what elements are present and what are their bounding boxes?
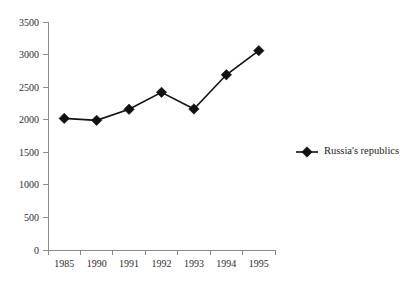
x-axis-ticks: [48, 250, 275, 255]
x-tick-label: 1993: [184, 258, 204, 269]
x-tick-label: 1991: [119, 258, 139, 269]
y-axis-tick-labels: 0500100015002000250030003500: [19, 17, 39, 256]
line-chart: 0500100015002000250030003500 19851990199…: [0, 0, 407, 284]
y-tick-label: 1500: [19, 147, 39, 158]
legend: Russia's republics: [296, 145, 399, 157]
y-tick-label: 3500: [19, 17, 39, 28]
x-tick-label: 1995: [249, 258, 269, 269]
y-tick-label: 2000: [19, 114, 39, 125]
x-tick-label: 1985: [54, 258, 74, 269]
y-axis-ticks: [43, 22, 48, 250]
y-tick-label: 2500: [19, 82, 39, 93]
legend-label: Russia's republics: [324, 145, 399, 156]
y-tick-label: 3000: [19, 49, 39, 60]
y-tick-label: 500: [24, 212, 39, 223]
series-markers: [59, 45, 264, 125]
data-point-marker: [156, 87, 166, 97]
chart-container: 0500100015002000250030003500 19851990199…: [0, 0, 407, 284]
x-tick-label: 1990: [87, 258, 107, 269]
x-tick-label: 1994: [216, 258, 236, 269]
x-tick-label: 1992: [152, 258, 172, 269]
y-tick-label: 0: [34, 245, 39, 256]
x-axis-tick-labels: 1985199019911992199319941995: [54, 258, 269, 269]
data-point-marker: [91, 115, 101, 125]
series-line-russias-republics: [64, 51, 259, 121]
y-tick-label: 1000: [19, 179, 39, 190]
legend-diamond-marker: [302, 147, 312, 157]
data-point-marker: [59, 113, 69, 123]
data-point-marker: [124, 104, 134, 114]
